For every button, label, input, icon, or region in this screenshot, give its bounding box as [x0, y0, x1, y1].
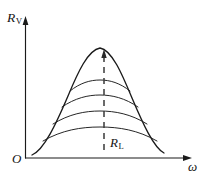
- curve-1: [43, 127, 157, 141]
- rl-annotation-label: RL: [110, 136, 124, 151]
- y-axis-arrowhead: [23, 16, 29, 25]
- curve-2: [53, 111, 147, 124]
- resonance-curve-figure: [0, 0, 207, 190]
- y-axis-label-main: R: [7, 10, 15, 25]
- figure-container: RV ω O RL: [0, 0, 207, 190]
- rl-dashed-arrow: [101, 49, 106, 150]
- y-axis-label-subscript: V: [15, 16, 22, 26]
- curve-outer: [32, 48, 164, 155]
- y-axis-label: RV: [7, 11, 22, 26]
- rl-label-main: R: [110, 135, 118, 150]
- origin-label: O: [12, 152, 21, 165]
- curve-3: [62, 95, 138, 107]
- y-axis-group: [23, 16, 29, 158]
- x-axis-group: [26, 155, 193, 161]
- curve-4: [70, 80, 130, 91]
- rl-label-subscript: L: [118, 141, 124, 151]
- x-axis-label: ω: [188, 160, 197, 173]
